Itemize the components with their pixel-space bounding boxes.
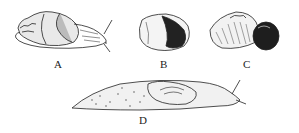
label-b: B [160, 58, 167, 70]
snail-b-icon [139, 14, 189, 51]
snail-c-icon [210, 12, 279, 50]
label-a: A [54, 58, 62, 70]
snail-a-icon [16, 12, 113, 52]
label-d: D [139, 114, 147, 126]
illustration-drawings [0, 0, 299, 133]
label-c: C [243, 58, 250, 70]
slug-d-icon [72, 80, 246, 110]
snail-illustration-figure: A B C D [0, 0, 299, 133]
